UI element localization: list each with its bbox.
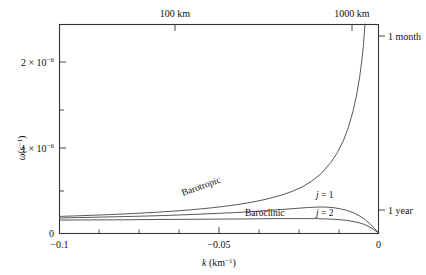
y-axis-title-base: ω(s [16, 146, 28, 160]
y-tick-2-mantissa: 2 × 10 [21, 57, 47, 68]
y-tick-label-0: 0 [49, 228, 54, 239]
x-tick-label-mid: −0.05 [207, 239, 230, 250]
curve-label-j1-eq: = 1 [321, 190, 334, 200]
top-tick-label-1000km: 1000 km [334, 8, 370, 19]
y-tick-label-2e-6: 2 × 10−6 [21, 56, 55, 68]
svg-text:ω(s−1): ω(s−1) [16, 136, 29, 161]
y-axis-title-close: ) [16, 136, 28, 139]
x-axis-title-close: ) [233, 257, 236, 269]
right-axis-ticks [379, 36, 386, 210]
plot-frame [60, 25, 379, 234]
right-tick-label-1month: 1 month [388, 31, 421, 42]
curve-label-barotropic: Barotropic [180, 175, 222, 198]
svg-text:j = 2: j = 2 [314, 208, 334, 218]
svg-text:k (km−1): k (km−1) [202, 257, 236, 270]
chart-svg: 100 km 1000 km 1 month 1 year 2 × 10−6 1… [0, 0, 426, 275]
x-axis-ticks [60, 227, 379, 234]
svg-text:j = 1: j = 1 [314, 190, 334, 200]
curve-label-baroclinic: Baroclinic [245, 208, 285, 218]
x-axis-title-unit: (km [209, 257, 225, 269]
x-tick-label-right: 0 [376, 239, 381, 250]
curve-label-j2: j = 2 [314, 208, 334, 218]
curve-label-j1: j = 1 [314, 190, 334, 200]
y-tick-2-exponent: −6 [47, 56, 55, 64]
curve-barotropic [60, 24, 366, 216]
y-axis-title: ω(s−1) [16, 136, 29, 161]
svg-text:2 × 10−6: 2 × 10−6 [21, 56, 55, 68]
y-tick-1-exponent: −6 [47, 142, 55, 150]
x-axis-title: k (km−1) [202, 257, 236, 270]
y-axis-ticks [60, 62, 67, 191]
dispersion-relation-figure: 100 km 1000 km 1 month 1 year 2 × 10−6 1… [0, 0, 426, 275]
top-tick-label-100km: 100 km [160, 8, 191, 19]
right-tick-label-1year: 1 year [388, 205, 413, 216]
top-axis-ticks [175, 25, 352, 32]
x-tick-label-left: −0.1 [50, 239, 68, 250]
curve-label-j2-eq: = 2 [321, 208, 334, 218]
